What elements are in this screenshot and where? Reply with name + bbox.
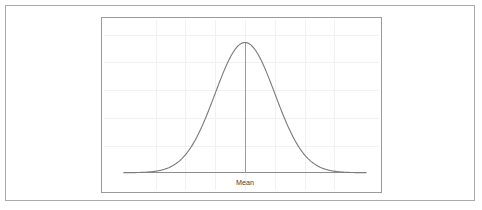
mean-axis-label: Mean xyxy=(236,179,254,187)
figure-page: { "figure": { "background_color": "#ffff… xyxy=(0,0,482,210)
chart-panel: Mean xyxy=(101,17,382,193)
horizontal-gridlines xyxy=(104,35,379,146)
bell-curve-chart: Mean xyxy=(102,18,381,192)
outer-figure-border: Mean xyxy=(5,5,475,201)
